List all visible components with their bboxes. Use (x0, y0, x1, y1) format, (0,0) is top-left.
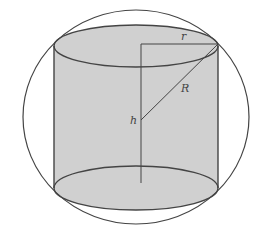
label-R: R (180, 82, 189, 95)
cylinder-top-base (54, 25, 218, 67)
cylinder-bottom-base (54, 166, 218, 210)
cylinder-in-sphere-diagram: r R h (0, 0, 262, 235)
label-h: h (130, 114, 137, 127)
label-r: r (181, 30, 187, 43)
